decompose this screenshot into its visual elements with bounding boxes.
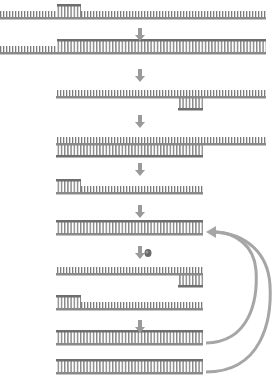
step-arrows (135, 28, 145, 333)
cycle-arrow-from-row-10 (206, 232, 270, 372)
down-arrow-icon (135, 163, 145, 176)
down-arrow-icon (135, 115, 145, 128)
dna-strand-row-9 (56, 330, 203, 346)
dna-strand-row-10 (56, 359, 203, 375)
dna-strand-row-7 (56, 267, 203, 288)
cycle-arrows (206, 226, 270, 372)
dna-strand-row-8 (56, 295, 203, 311)
cycle-arrow-from-row-9 (206, 232, 256, 343)
down-arrow-icon (135, 205, 145, 218)
dna-strand-row-1 (0, 4, 266, 20)
enzyme-icon (145, 249, 152, 257)
dna-strand-row-6 (56, 220, 203, 236)
dna-strand-row-3 (56, 90, 266, 111)
down-arrow-icon (135, 69, 145, 82)
dna-strand-row-2 (0, 39, 266, 55)
dna-strand-row-5 (56, 179, 203, 195)
cycle-arrowhead-icon (206, 226, 216, 238)
dna-rows (0, 4, 266, 375)
down-arrow-icon (135, 246, 145, 259)
dna-strand-row-4 (56, 137, 266, 158)
dna-amplification-diagram (0, 0, 275, 380)
